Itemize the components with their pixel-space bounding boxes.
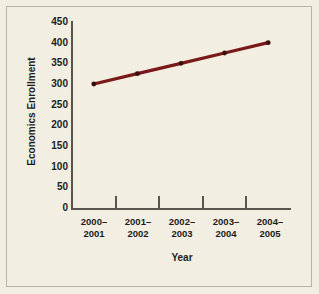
data-point-marker: 2001–2002: 325 [135,71,140,76]
x-axis-tick-label-line: 2004– [248,216,292,228]
data-point-marker: 2004–2005: 400 [266,40,271,45]
x-axis-title: Year [72,252,292,263]
x-axis-tick-label: 2003–2004 [204,216,248,250]
x-axis-tick-label-line: 2001 [72,228,116,240]
x-axis-tick-label: 2001–2002 [116,216,160,250]
x-axis-tick-label-line: 2003– [204,216,248,228]
plot-area: 2000–2001: 3002001–2002: 3252002–2003: 3… [72,22,290,208]
y-axis-tick-label: 0 [28,203,68,213]
chart-figure: 050100150200250300350400450 2000–2001: 3… [0,0,319,294]
data-point-marker: 2000–2001: 300 [91,82,96,87]
x-axis-tick-label-line: 2002 [116,228,160,240]
x-axis-tick-label: 2000–2001 [72,216,116,250]
data-point-marker: 2003–2004: 375 [222,51,227,56]
x-axis-tick-label: 2002–2003 [160,216,204,250]
x-axis-tick-label-line: 2000– [72,216,116,228]
x-axis-tick-labels: 2000–20012001–20022002–20032003–20042004… [72,216,292,250]
x-axis-tick-label-line: 2005 [248,228,292,240]
x-axis-tick-label-line: 2001– [116,216,160,228]
x-axis-tick-label-line: 2004 [204,228,248,240]
y-axis-title: Economics Enrollment [26,19,37,205]
x-axis-tick-label-line: 2002– [160,216,204,228]
x-axis-line [71,208,291,210]
x-axis-tick-label-line: 2003 [160,228,204,240]
data-point-marker: 2002–2003: 350 [179,61,184,66]
series-economics-enrollment: 2000–2001: 3002001–2002: 3252002–2003: 3… [72,22,290,208]
x-axis-tick-label: 2004–2005 [248,216,292,250]
